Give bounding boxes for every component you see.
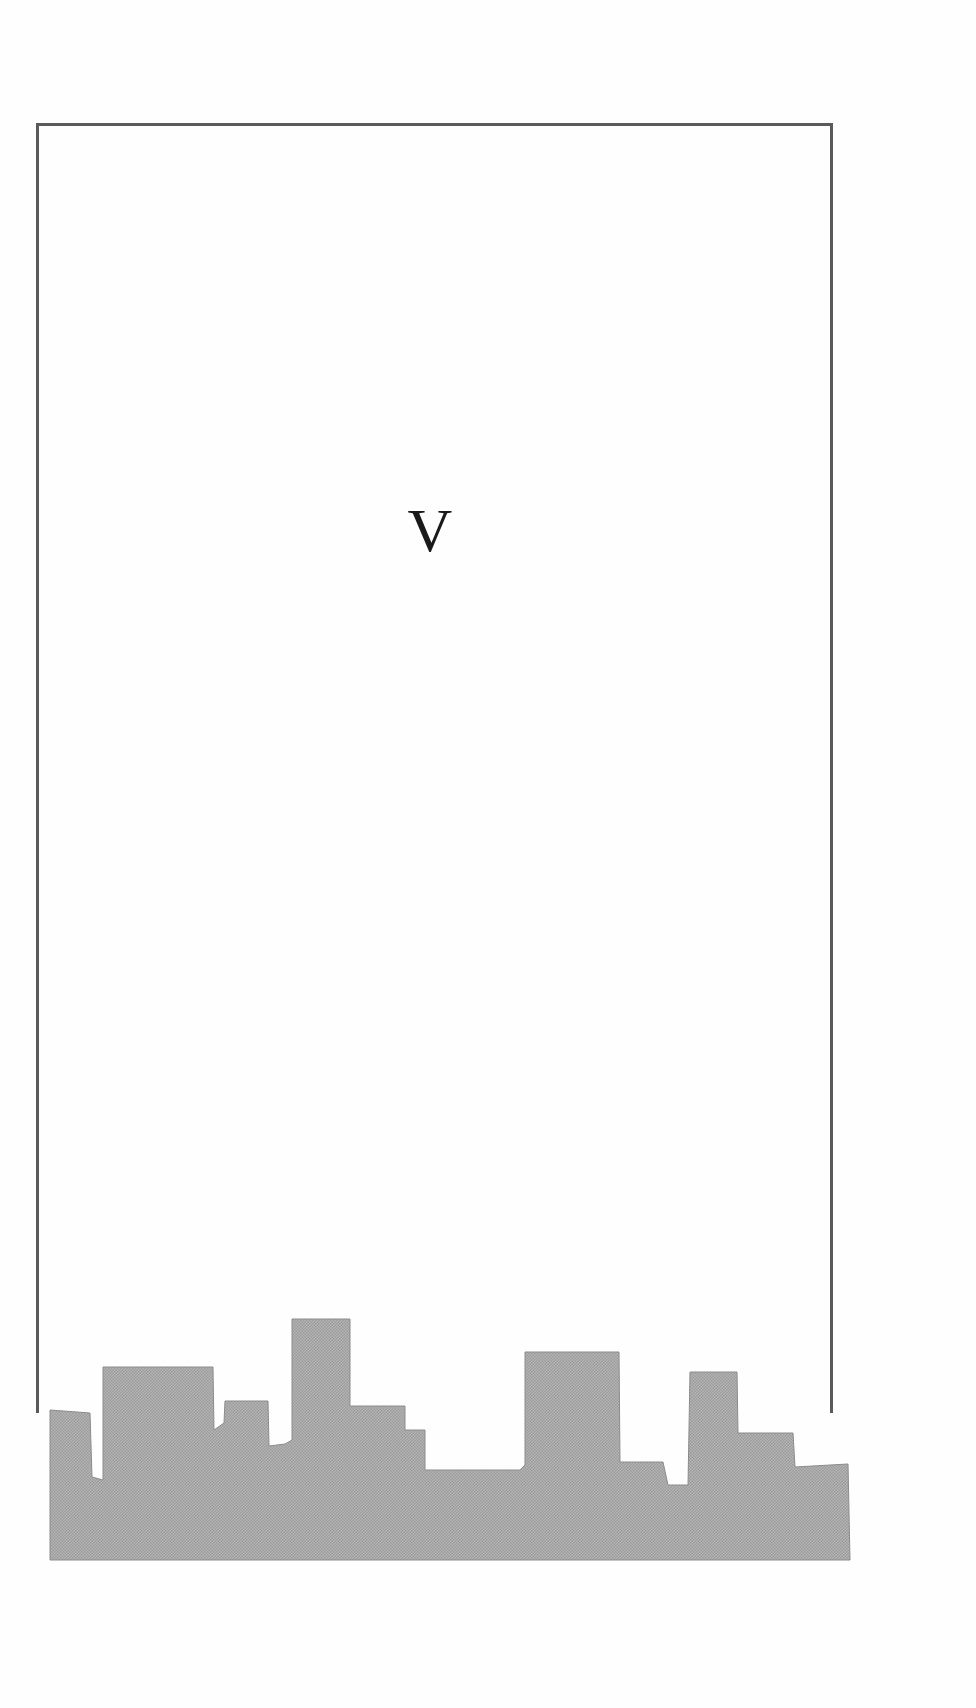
- frame-border-top: [36, 123, 833, 126]
- skyline-silhouette: [50, 1319, 850, 1560]
- frame-border-right: [830, 123, 833, 1413]
- frame-border-left: [36, 123, 39, 1413]
- book-page: V: [0, 0, 976, 1708]
- section-numeral: V: [380, 490, 480, 570]
